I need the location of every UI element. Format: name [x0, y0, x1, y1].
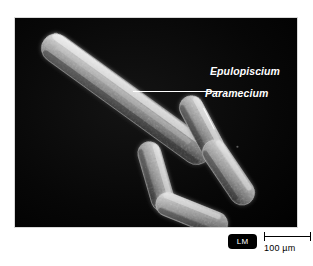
micrograph-image	[15, 18, 297, 227]
micrograph-photo-panel	[14, 17, 298, 228]
scale-bar	[264, 232, 311, 241]
micrograph-figure: Epulopiscium Paramecium LM 100 µm	[0, 0, 313, 266]
paramecium-label: Paramecium	[205, 88, 268, 99]
epulopiscium-label: Epulopiscium	[210, 66, 280, 77]
scale-bar-right-cap	[310, 232, 311, 241]
scale-bar-caption: 100 µm	[264, 243, 313, 253]
scale-bar-group: 100 µm	[264, 232, 313, 253]
light-microscopy-badge: LM	[228, 234, 257, 249]
scale-bar-line	[264, 236, 311, 237]
figure-caption-row: LM 100 µm	[14, 232, 298, 260]
debris-speck	[236, 146, 238, 148]
